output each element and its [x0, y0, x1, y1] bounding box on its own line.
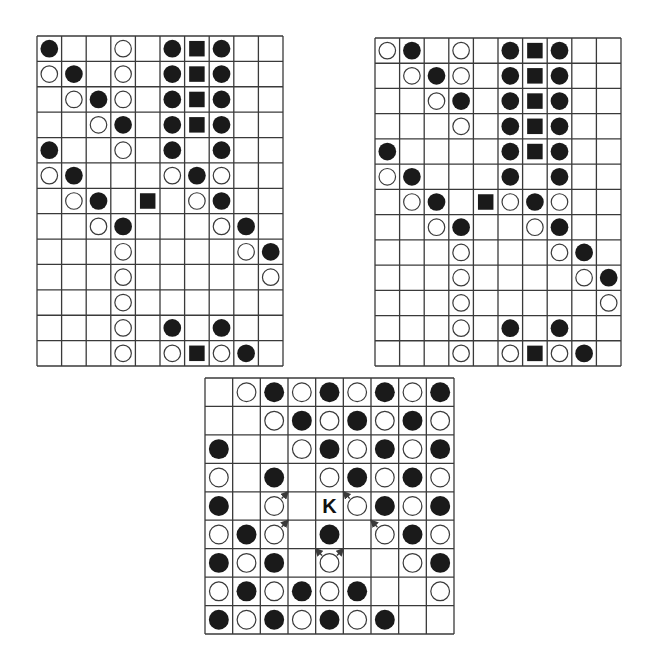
white-stone	[428, 93, 445, 110]
white-stone	[189, 193, 206, 210]
white-stone	[551, 244, 568, 261]
white-stone	[403, 554, 422, 573]
black-square-marker	[527, 144, 542, 159]
black-stone	[501, 117, 519, 135]
black-stone	[292, 581, 312, 601]
white-stone	[115, 40, 132, 57]
white-stone	[265, 497, 284, 516]
white-stone	[404, 194, 421, 211]
white-stone	[431, 411, 450, 430]
white-stone	[66, 91, 83, 108]
black-stone	[264, 610, 284, 630]
black-stone	[551, 42, 569, 60]
black-stone	[600, 269, 618, 287]
white-stone	[404, 68, 421, 85]
white-stone	[292, 610, 311, 629]
white-stone	[115, 244, 132, 261]
white-stone	[209, 468, 228, 487]
black-stone	[430, 553, 450, 573]
black-stone	[163, 40, 181, 58]
white-stone	[453, 118, 470, 135]
black-stone	[375, 382, 395, 402]
black-stone	[551, 168, 569, 186]
black-stone	[213, 65, 231, 83]
black-stone	[551, 218, 569, 236]
black-stone	[209, 610, 229, 630]
white-stone	[320, 468, 339, 487]
white-stone	[379, 169, 396, 186]
white-stone	[375, 468, 394, 487]
black-stone	[213, 319, 231, 337]
black-stone	[428, 193, 446, 211]
white-stone	[320, 554, 339, 573]
black-stone	[501, 42, 519, 60]
white-stone	[115, 91, 132, 108]
black-stone	[501, 168, 519, 186]
white-stone	[375, 411, 394, 430]
white-stone	[115, 269, 132, 286]
black-stone	[213, 192, 231, 210]
black-stone	[452, 218, 470, 236]
black-stone	[209, 439, 229, 459]
white-stone	[453, 269, 470, 286]
arrow-up-left	[316, 549, 322, 556]
black-stone	[90, 91, 108, 109]
black-stone	[501, 92, 519, 110]
black-stone	[375, 496, 395, 516]
black-stone	[347, 468, 367, 488]
black-stone	[65, 167, 83, 185]
black-square-marker	[527, 68, 542, 83]
black-stone	[163, 116, 181, 134]
black-stone	[264, 382, 284, 402]
label-k: K	[322, 495, 337, 517]
black-stone	[430, 382, 450, 402]
white-stone	[41, 66, 58, 83]
white-stone	[115, 345, 132, 362]
black-stone	[209, 553, 229, 573]
white-stone	[265, 411, 284, 430]
black-stone	[551, 143, 569, 161]
black-stone	[213, 116, 231, 134]
white-stone	[527, 219, 544, 236]
white-stone	[502, 194, 519, 211]
black-stone	[575, 244, 593, 262]
black-stone	[430, 439, 450, 459]
black-stone	[188, 167, 206, 185]
white-stone	[213, 345, 230, 362]
white-stone	[320, 582, 339, 601]
black-stone	[114, 116, 132, 134]
black-stone	[403, 42, 421, 60]
white-stone	[237, 610, 256, 629]
black-stone	[430, 496, 450, 516]
black-stone	[209, 496, 229, 516]
black-stone	[264, 468, 284, 488]
white-stone	[348, 497, 367, 516]
white-stone	[115, 142, 132, 159]
white-stone	[265, 582, 284, 601]
black-stone	[114, 218, 132, 236]
black-stone	[320, 524, 340, 544]
black-square-marker	[527, 119, 542, 134]
black-stone	[237, 581, 257, 601]
black-stone	[375, 439, 395, 459]
white-stone	[320, 411, 339, 430]
white-stone	[348, 440, 367, 459]
white-stone	[115, 320, 132, 337]
white-stone	[551, 194, 568, 211]
white-stone	[115, 66, 132, 83]
black-stone	[65, 65, 83, 83]
black-stone	[213, 40, 231, 58]
black-stone	[163, 65, 181, 83]
black-stone	[40, 141, 58, 159]
white-stone	[453, 42, 470, 59]
board-2-svg	[375, 38, 621, 366]
white-stone	[164, 167, 181, 184]
white-stone	[403, 383, 422, 402]
black-stone	[163, 91, 181, 109]
white-stone	[292, 440, 311, 459]
black-stone	[237, 218, 255, 236]
white-stone	[265, 525, 284, 544]
black-square-marker	[189, 346, 204, 361]
black-stone	[551, 319, 569, 337]
white-stone	[164, 345, 181, 362]
